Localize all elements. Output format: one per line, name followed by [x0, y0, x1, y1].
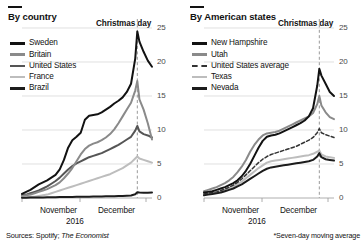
y-tick-label: 0	[339, 193, 355, 202]
panel-title: By American states	[190, 11, 276, 22]
line-chart-svg	[204, 28, 334, 198]
y-tick-label: 5	[157, 159, 173, 168]
title-rule	[8, 6, 22, 8]
series-line	[204, 96, 334, 191]
y-tick-label: 20	[339, 57, 355, 66]
series-line	[22, 81, 152, 196]
y-tick-label: 5	[339, 159, 355, 168]
series-lines	[204, 69, 334, 195]
series-lines	[22, 31, 152, 197]
axis-x	[204, 198, 334, 202]
x-label-december: December	[98, 206, 135, 215]
y-tick-label: 10	[339, 125, 355, 134]
christmas-day-annotation: Christmas day	[278, 19, 333, 28]
source-italic: The Economist	[61, 231, 108, 240]
y-tick-label: 15	[339, 91, 355, 100]
source-note: Sources: Spotify; The Economist	[6, 231, 109, 240]
panel-by-american-states: By American states New Hampshire Utah Un…	[182, 0, 364, 246]
series-line	[204, 69, 334, 193]
panel-by-country: By country Sweden Britain United States …	[0, 0, 182, 246]
y-tick-label: 15	[157, 91, 173, 100]
x-label-december: December	[280, 206, 317, 215]
x-axis-year: 2016	[66, 217, 84, 226]
y-tick-label: 20	[157, 57, 173, 66]
line-chart-svg	[22, 28, 152, 198]
series-line	[22, 31, 152, 194]
plot-area	[204, 28, 334, 198]
plot-area	[22, 28, 152, 198]
economist-chart-figure: By country Sweden Britain United States …	[0, 0, 364, 246]
footnote: *Seven-day moving average	[273, 231, 360, 240]
source-prefix: Sources: Spotify;	[6, 231, 61, 240]
y-tick-label: 0	[157, 193, 173, 202]
y-tick-label: 10	[157, 125, 173, 134]
x-label-november: November	[40, 206, 77, 215]
christmas-day-annotation: Christmas day	[96, 19, 151, 28]
panel-title: By country	[8, 11, 57, 22]
y-tick-label: 25	[339, 23, 355, 32]
y-tick-label: 25	[157, 23, 173, 32]
x-axis-year: 2016	[248, 217, 266, 226]
x-label-november: November	[222, 206, 259, 215]
axis-x	[22, 198, 152, 202]
title-rule	[190, 6, 204, 8]
